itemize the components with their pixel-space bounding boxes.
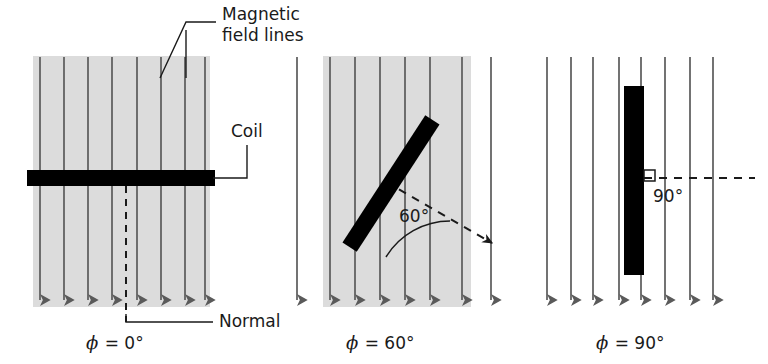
coil-label: Coil <box>231 121 263 141</box>
phi-symbol: ϕ <box>346 332 358 353</box>
panel-phi-90: 90° ϕ = 90° <box>547 57 755 353</box>
magnetic-field-lines-label-line2: field lines <box>222 25 304 45</box>
caption-panel-90: ϕ = 90° <box>596 332 664 353</box>
coil-leader-line <box>213 145 247 178</box>
angle-label-panel-90: 90° <box>653 186 683 206</box>
coil-bar-panel-0 <box>27 170 215 186</box>
normal-label: Normal <box>219 311 281 331</box>
caption-text: = 60° <box>359 333 414 353</box>
caption-text: = 90° <box>609 333 664 353</box>
figure-root: Normal Coil ϕ = 0° Magnetic field lines <box>0 0 768 364</box>
right-angle-marker-panel-90 <box>644 170 655 181</box>
caption-panel-60: ϕ = 60° <box>346 332 414 353</box>
coil-bar-panel-90 <box>624 86 644 275</box>
panel-phi-0: Normal Coil ϕ = 0° <box>27 56 281 353</box>
panel-phi-60: 60° ϕ = 60° <box>297 56 492 353</box>
magnetic-flux-diagram: Normal Coil ϕ = 0° Magnetic field lines <box>0 0 768 364</box>
angle-label-panel-60: 60° <box>399 206 429 226</box>
caption-panel-0: ϕ = 0° <box>86 332 144 353</box>
caption-text: = 0° <box>99 333 143 353</box>
magnetic-field-lines-label-line1: Magnetic <box>222 4 300 24</box>
phi-symbol: ϕ <box>86 332 98 353</box>
normal-leader-line <box>126 314 213 322</box>
phi-symbol: ϕ <box>596 332 608 353</box>
